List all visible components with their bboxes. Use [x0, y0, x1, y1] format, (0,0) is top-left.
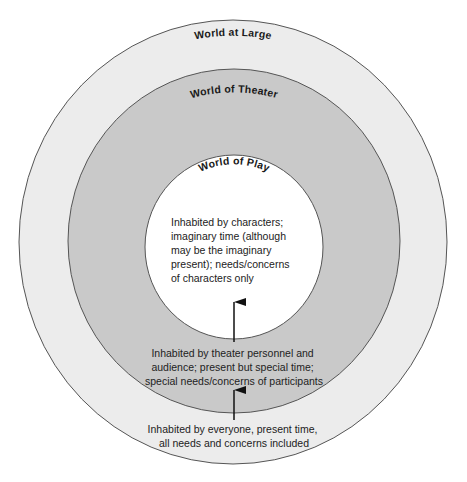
description-line: Inhabited by theater personnel and	[151, 347, 313, 359]
description-line: imaginary time (although	[171, 230, 286, 242]
description-line: special needs/concerns of participants	[145, 375, 323, 387]
description-line: audience; present but special time;	[151, 361, 313, 373]
concentric-worlds-diagram: World at Large World of Theater World of…	[0, 0, 467, 482]
description-line: of characters only	[171, 272, 255, 284]
description-world-of-theater: Inhabited by theater personnel and audie…	[145, 347, 323, 387]
description-line: Inhabited by everyone, present time,	[148, 423, 318, 435]
description-line: may be the imaginary	[171, 244, 272, 256]
description-line: Inhabited by characters;	[171, 216, 283, 228]
description-line: present); needs/concerns	[171, 258, 289, 270]
description-line: all needs and concerns included	[159, 437, 309, 449]
